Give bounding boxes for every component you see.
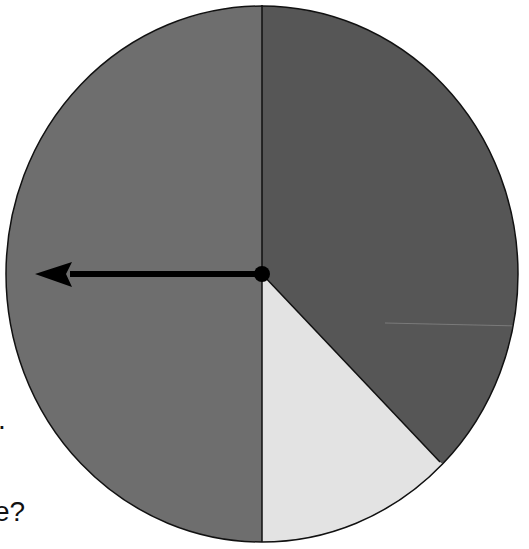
center-pivot bbox=[254, 266, 270, 282]
spinner-diagram bbox=[0, 0, 529, 549]
text-fragment-question: e? bbox=[0, 498, 25, 526]
text-fragment-period: . bbox=[0, 406, 6, 434]
